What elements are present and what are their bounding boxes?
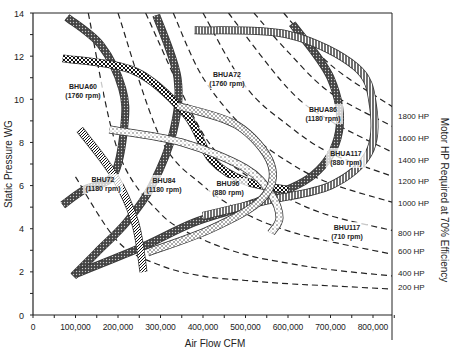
svg-text:BHU96: BHU96	[217, 180, 240, 187]
x-axis-ticks: 0100,000200,000300,000400,000500,000600,…	[31, 315, 395, 332]
x-tick-label: 700,000	[315, 322, 346, 332]
x-tick-label: 800,000	[358, 322, 389, 332]
fan-label-bhua60: BHUA60(1760 rpm)	[63, 81, 103, 101]
fan-label-bhu117: BHU117(710 rpm)	[327, 222, 367, 242]
svg-text:BHU84: BHU84	[153, 177, 176, 184]
svg-text:BHU72: BHU72	[92, 176, 115, 183]
fan-label-bhua72: BHUA72(1760 rpm)	[207, 69, 247, 89]
svg-text:BHUA60: BHUA60	[69, 83, 97, 90]
fan-performance-chart: 02468101214 0100,000200,000300,000400,00…	[0, 0, 452, 359]
hp-label: 800 HP	[398, 229, 425, 238]
svg-text:(1180 rpm): (1180 rpm)	[146, 186, 181, 194]
hp-curve	[173, 13, 394, 203]
y-tick-label: 12	[14, 52, 24, 62]
svg-text:BHUA72: BHUA72	[213, 71, 241, 78]
y-axis-ticks: 02468101214	[14, 9, 33, 321]
svg-text:(880 rpm): (880 rpm)	[212, 189, 244, 197]
hp-label: 400 HP	[398, 269, 425, 278]
y-tick-label: 2	[19, 267, 24, 277]
y-tick-label: 14	[14, 9, 24, 19]
hp-label: 200 HP	[398, 283, 425, 292]
svg-text:(710 rpm): (710 rpm)	[331, 233, 363, 241]
hp-label: 1200 HP	[398, 177, 429, 186]
hp-label: 1800 HP	[398, 112, 429, 121]
x-axis-title: Air Flow CFM	[185, 338, 246, 349]
fan-label-bhu84: BHU84(1180 rpm)	[144, 175, 184, 195]
hp-label: 1400 HP	[398, 156, 429, 165]
hp-label: 1600 HP	[398, 134, 429, 143]
x-tick-label: 600,000	[273, 322, 304, 332]
x-tick-label: 500,000	[230, 322, 261, 332]
y-axis-title: Static Pressure WG	[3, 120, 14, 208]
x-tick-label: 0	[31, 322, 36, 332]
hp-labels: 1800 HP1600 HP1400 HP1200 HP1000 HP800 H…	[398, 112, 429, 292]
svg-text:(1760 rpm): (1760 rpm)	[209, 80, 244, 88]
x-tick-label: 300,000	[145, 322, 176, 332]
y2-axis-title: Motor HP Required at 70% Efficiency	[439, 118, 450, 283]
y-tick-label: 4	[19, 224, 24, 234]
hp-label: 600 HP	[398, 247, 425, 256]
y-tick-label: 0	[19, 311, 24, 321]
svg-text:(1760 rpm): (1760 rpm)	[65, 92, 100, 100]
y-tick-label: 10	[14, 95, 24, 105]
fan-label-bhu72: BHU72(1180 rpm)	[83, 174, 123, 194]
fan-label-bhua86: BHUA86(1180 rpm)	[303, 104, 343, 124]
y-tick-label: 6	[19, 181, 24, 191]
svg-text:(1180 rpm): (1180 rpm)	[305, 115, 340, 123]
hp-label: 1000 HP	[398, 199, 429, 208]
svg-text:BHUA86: BHUA86	[309, 106, 337, 113]
fan-label-bhu96: BHU96(880 rpm)	[208, 178, 248, 198]
x-tick-label: 100,000	[60, 322, 91, 332]
x-tick-label: 200,000	[103, 322, 134, 332]
fan-label-bhua117: BHUA117(880 rpm)	[326, 148, 366, 168]
svg-text:(1180 rpm): (1180 rpm)	[85, 185, 120, 193]
svg-text:(880 rpm): (880 rpm)	[330, 159, 362, 167]
y-tick-label: 8	[19, 138, 24, 148]
svg-text:BHUA117: BHUA117	[330, 150, 362, 157]
x-tick-label: 400,000	[188, 322, 219, 332]
svg-text:BHU117: BHU117	[334, 224, 361, 231]
